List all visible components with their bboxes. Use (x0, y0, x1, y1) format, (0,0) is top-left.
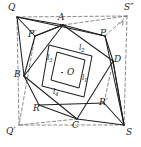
point-label-Pp: P′ (28, 30, 36, 39)
vertex-label-B: B (14, 70, 21, 79)
vertex-label-A: A (58, 13, 65, 22)
edge-11 (77, 119, 124, 125)
edge-16 (24, 76, 39, 105)
dashed-line-8 (19, 119, 77, 125)
segment-label-l1: l1 (82, 74, 88, 83)
vertex-label-Q: Q (8, 3, 15, 12)
vertex-label-Q2: Q′ (6, 127, 15, 136)
dashed-line-1 (124, 16, 127, 125)
inner-square-edge-2 (51, 80, 79, 88)
vertex-label-S2: S″ (124, 3, 134, 12)
segment-label-l2: l2 (79, 44, 85, 53)
segment-label-l3-subscript: 3 (49, 57, 53, 63)
segment-label-l4-subscript: 4 (55, 91, 59, 97)
edge-4 (63, 25, 105, 36)
vertex-label-C: C (72, 121, 79, 130)
square-edge-0 (49, 45, 92, 56)
segment-label-l4: l4 (53, 88, 59, 97)
edge-20 (105, 36, 124, 125)
segment-label-l3: l3 (47, 54, 53, 63)
point-label-R: R (33, 104, 40, 113)
edge-14 (39, 105, 77, 119)
edge-17 (24, 36, 35, 76)
segment-label-l2-subscript: 2 (81, 47, 85, 53)
arrow-to-S2 (120, 21, 123, 25)
vertex-label-S: S (126, 128, 132, 137)
arrowheads (120, 21, 123, 25)
dashed-line-0 (17, 16, 127, 17)
edge-19 (39, 103, 104, 105)
geometry-figure: QS″SQ′ADCBPP′RR′l1l2l3l4O (0, 0, 141, 147)
point-label-P: P (100, 29, 106, 38)
edge-15 (24, 76, 77, 119)
vertex-label-D: D (114, 55, 121, 64)
point-label-Rp: R′ (99, 98, 108, 107)
dashed-line-7 (63, 16, 127, 25)
segment-label-l1-subscript: 1 (84, 77, 88, 83)
center-label-O: O (67, 68, 74, 77)
